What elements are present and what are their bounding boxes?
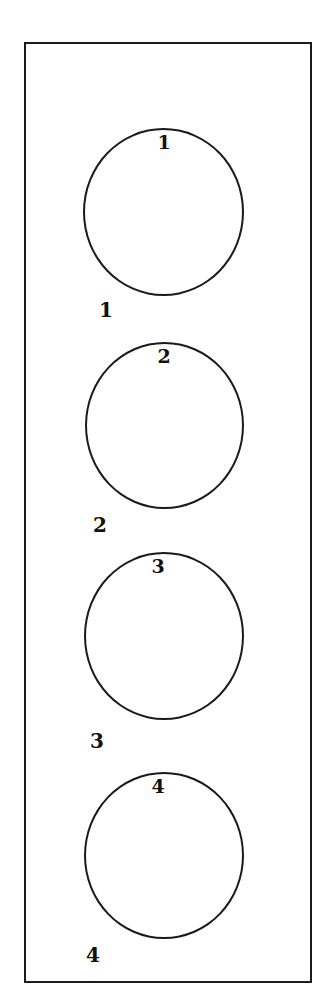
circle-4-outer-label: 4 — [86, 945, 100, 965]
circle-2-inner-label: 2 — [157, 347, 170, 366]
circle-4 — [84, 772, 244, 939]
circle-2 — [85, 342, 244, 509]
circle-3-outer-label: 3 — [90, 731, 104, 751]
circle-2-outer-label: 2 — [93, 515, 107, 535]
circle-1 — [83, 128, 244, 296]
circle-3 — [84, 552, 244, 720]
circle-3-inner-label: 3 — [151, 557, 164, 576]
circle-4-inner-label: 4 — [151, 777, 164, 796]
circle-1-outer-label: 1 — [99, 300, 113, 320]
circle-1-inner-label: 1 — [157, 133, 170, 152]
